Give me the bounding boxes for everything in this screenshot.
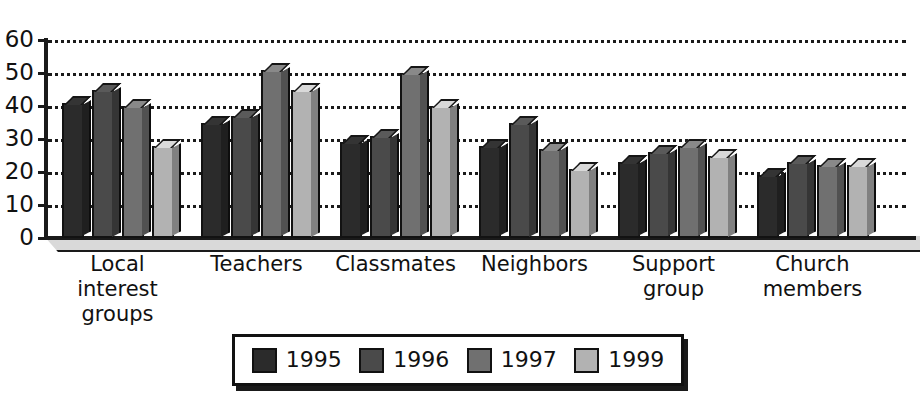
chart-legend: 1995199619971999 — [232, 334, 684, 386]
bar-side-face — [281, 67, 290, 236]
bar-side-face — [390, 133, 399, 236]
bar-teachers-1997 — [261, 70, 283, 238]
legend-label-1997: 1997 — [501, 349, 557, 371]
bar-church-members-1997 — [817, 165, 839, 238]
bar-chart: 6050403020100 Local interestgroupsTeache… — [0, 0, 924, 419]
bar-side-face — [698, 143, 707, 236]
bar-local-interest-groups-1995 — [62, 103, 84, 238]
bar-church-members-1996 — [787, 162, 809, 238]
bar-side-face — [777, 173, 786, 236]
bar-church-members-1999 — [847, 165, 869, 238]
bar-classmates-1999 — [430, 106, 452, 238]
y-axis-label-10: 10 — [0, 193, 34, 216]
bar-side-face — [311, 87, 320, 236]
category-label-classmates: Classmates — [326, 252, 465, 277]
bar-side-face — [837, 163, 846, 236]
y-axis-label-20: 20 — [0, 160, 34, 183]
bar-side-face — [559, 146, 568, 236]
y-axis-label-40: 40 — [0, 94, 34, 117]
bar-support-group-1997 — [678, 146, 700, 238]
bar-side-face — [728, 153, 737, 236]
bar-neighbors-1995 — [479, 146, 501, 238]
legend-label-1995: 1995 — [286, 349, 342, 371]
category-label-neighbors: Neighbors — [465, 252, 604, 277]
bar-side-face — [638, 159, 647, 236]
bar-side-face — [221, 120, 230, 236]
legend-item-1996[interactable]: 1996 — [359, 348, 449, 373]
y-axis-label-60: 60 — [0, 28, 34, 51]
y-axis-label-0: 0 — [0, 226, 34, 249]
bar-side-face — [499, 143, 508, 236]
category-label-line: group — [604, 277, 743, 302]
bar-side-face — [251, 113, 260, 236]
bar-side-face — [142, 103, 151, 236]
category-label-support-group: Supportgroup — [604, 252, 743, 302]
bar-teachers-1995 — [201, 123, 223, 239]
category-label-church-members: Churchmembers — [743, 252, 882, 302]
category-label-line: members — [743, 277, 882, 302]
bar-neighbors-1997 — [539, 149, 561, 238]
category-label-line: Teachers — [187, 252, 326, 277]
bar-side-face — [360, 140, 369, 236]
bar-local-interest-groups-1996 — [92, 90, 114, 239]
bar-side-face — [529, 120, 538, 236]
bar-classmates-1997 — [400, 73, 422, 238]
category-label-line: groups — [48, 302, 187, 327]
bar-support-group-1999 — [708, 156, 730, 239]
bar-classmates-1995 — [340, 142, 362, 238]
y-axis-label-50: 50 — [0, 61, 34, 84]
category-label-teachers: Teachers — [187, 252, 326, 277]
category-label-line: Support — [604, 252, 743, 277]
bar-side-face — [668, 149, 677, 236]
bar-church-members-1995 — [757, 175, 779, 238]
legend-swatch-1995 — [252, 348, 277, 373]
bar-side-face — [172, 143, 181, 236]
bar-classmates-1996 — [370, 136, 392, 238]
bar-side-face — [112, 87, 121, 236]
category-label-line: Neighbors — [465, 252, 604, 277]
legend-swatch-1999 — [574, 348, 599, 373]
bar-side-face — [82, 100, 91, 236]
bar-neighbors-1996 — [509, 123, 531, 239]
bar-local-interest-groups-1997 — [122, 106, 144, 238]
legend-item-1997[interactable]: 1997 — [467, 348, 557, 373]
legend-label-1996: 1996 — [393, 349, 449, 371]
bar-support-group-1996 — [648, 152, 670, 238]
bar-support-group-1995 — [618, 162, 640, 238]
bar-teachers-1999 — [291, 90, 313, 239]
bar-side-face — [807, 159, 816, 236]
category-label-line: Classmates — [326, 252, 465, 277]
plot-area — [48, 40, 906, 238]
legend-swatch-1996 — [359, 348, 384, 373]
y-axis-label-30: 30 — [0, 127, 34, 150]
bar-teachers-1996 — [231, 116, 253, 238]
category-label-local-interest-groups: Local interestgroups — [48, 252, 187, 327]
bar-local-interest-groups-1999 — [152, 146, 174, 238]
legend-swatch-1997 — [467, 348, 492, 373]
legend-item-1995[interactable]: 1995 — [252, 348, 342, 373]
bar-side-face — [589, 166, 598, 236]
bar-neighbors-1999 — [569, 169, 591, 238]
legend-item-1999[interactable]: 1999 — [574, 348, 664, 373]
legend-label-1999: 1999 — [608, 349, 664, 371]
category-label-line: Local interest — [48, 252, 187, 302]
bar-side-face — [867, 163, 876, 236]
bar-side-face — [450, 103, 459, 236]
category-label-line: Church — [743, 252, 882, 277]
bar-side-face — [420, 70, 429, 236]
